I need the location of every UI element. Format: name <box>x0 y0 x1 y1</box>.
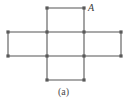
grid-vertex <box>45 6 48 9</box>
grid-vertex <box>45 30 48 33</box>
grid-vertex <box>6 30 9 33</box>
nodes-layer <box>6 6 122 81</box>
vertex-label-a: A <box>88 3 94 13</box>
grid-vertex <box>45 78 48 81</box>
grid-vertex <box>6 54 9 57</box>
figure-caption: (a) <box>0 86 127 97</box>
figure-container: A (a) <box>0 0 127 103</box>
grid-vertex <box>45 54 48 57</box>
grid-vertex <box>82 6 85 9</box>
edges-layer <box>8 8 121 80</box>
grid-vertex <box>82 78 85 81</box>
grid-vertex <box>119 30 122 33</box>
grid-vertex <box>119 54 122 57</box>
grid-vertex <box>82 54 85 57</box>
grid-vertex <box>82 30 85 33</box>
